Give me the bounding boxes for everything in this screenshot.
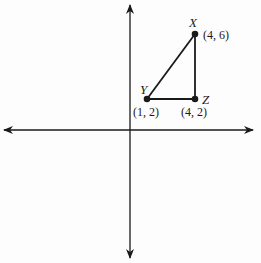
label-Y-coord: (1, 2) [133,105,159,119]
diagram-svg: X (4, 6) Y (1, 2) Z (4, 2) [0,0,261,263]
label-Z-coord: (4, 2) [181,105,207,119]
label-X-name: X [188,15,198,30]
segment-XY [147,34,195,99]
point-Z [192,96,199,103]
label-Y-name: Y [140,82,149,97]
label-X-coord: (4, 6) [203,28,229,42]
coordinate-plane: X (4, 6) Y (1, 2) Z (4, 2) [0,0,261,263]
point-X [192,31,199,38]
